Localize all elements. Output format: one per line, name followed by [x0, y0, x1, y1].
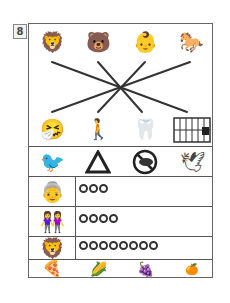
table-row-grandmother-picture: 👵: [31, 178, 73, 205]
count-circle: [99, 214, 108, 223]
table-row-two-girls-circles: [79, 214, 118, 223]
two-girls-icon: 👭: [40, 212, 65, 232]
corn-picture: 🌽: [79, 260, 117, 278]
count-circle: [129, 241, 138, 250]
pigeon-picture: 🕊: [173, 148, 211, 176]
table-row-divider: [29, 206, 212, 207]
count-circle: [109, 214, 118, 223]
coughing-person-icon: 🤧: [40, 119, 65, 139]
table-row-two-girls-picture: 👭: [31, 208, 73, 235]
back-pain-icon: 🚶: [86, 119, 111, 139]
count-circle: [139, 241, 148, 250]
table-column-divider: [75, 176, 76, 259]
coughing-person-picture: 🤧: [33, 114, 71, 144]
back-pain-picture: 🚶: [79, 114, 117, 144]
count-circle: [149, 241, 158, 250]
count-circle: [99, 184, 108, 193]
count-circle: [109, 241, 118, 250]
orange-picture: 🍊: [173, 260, 211, 278]
corn-icon: 🌽: [90, 262, 107, 276]
no-crow-icon: [131, 148, 159, 176]
count-circle: [79, 214, 88, 223]
pizza-picture: 🍕: [33, 260, 71, 278]
count-circle: [119, 241, 128, 250]
count-circle: [79, 184, 88, 193]
table-row-lion-face-circles: [79, 241, 158, 250]
count-circle: [89, 184, 98, 193]
jail-cage-picture: [173, 117, 211, 143]
divider: [29, 146, 212, 147]
warning-triangle-picture: [79, 148, 117, 176]
pigeon-icon: 🕊: [180, 152, 205, 172]
table-row-lion-face-picture: 🦁: [31, 237, 73, 259]
orange-icon: 🍊: [185, 264, 199, 275]
lion-face-icon: 🦁: [40, 238, 65, 258]
tooth-icon: 🦷: [133, 119, 158, 139]
toothache-picture: 🦷: [126, 114, 164, 144]
warning-triangle-icon: [85, 150, 111, 174]
grapes-picture: 🍇: [126, 260, 164, 278]
grapes-icon: 🍇: [137, 262, 154, 276]
count-circle: [89, 241, 98, 250]
crossed-out-crow-picture: [126, 148, 164, 176]
count-circle: [99, 241, 108, 250]
table-row-grandmother-circles: [79, 184, 108, 193]
sparrow-icon: 🐦: [40, 152, 65, 172]
count-circle: [89, 214, 98, 223]
question-number: 8: [13, 24, 27, 39]
pizza-icon: 🍕: [42, 261, 62, 277]
sparrow-picture: 🐦: [33, 148, 71, 176]
exercise-frame: 🦁 🐻 👶 🐎 🤧 🚶 🦷 🐦 🕊 👵: [28, 23, 213, 278]
grandmother-icon: 👵: [40, 182, 65, 202]
jail-cage-icon: [173, 117, 211, 143]
divider: [29, 176, 212, 177]
count-circle: [79, 241, 88, 250]
